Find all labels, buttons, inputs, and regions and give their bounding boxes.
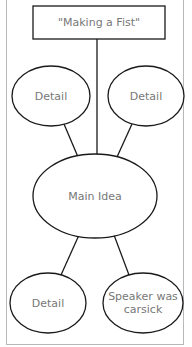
connector-detail1-main bbox=[64, 124, 78, 157]
connector-main-detail3 bbox=[61, 235, 79, 275]
detail-label-1: Detail bbox=[12, 90, 90, 103]
detail-label-3: Detail bbox=[10, 297, 86, 310]
detail-label-4: Speaker was carsick bbox=[106, 290, 180, 316]
connector-main-detail4 bbox=[114, 235, 129, 275]
detail-label-2: Detail bbox=[108, 90, 184, 103]
connector-detail2-main bbox=[117, 124, 132, 157]
main-idea-label: Main Idea bbox=[33, 190, 157, 203]
title-label: "Making a Fist" bbox=[33, 16, 165, 29]
